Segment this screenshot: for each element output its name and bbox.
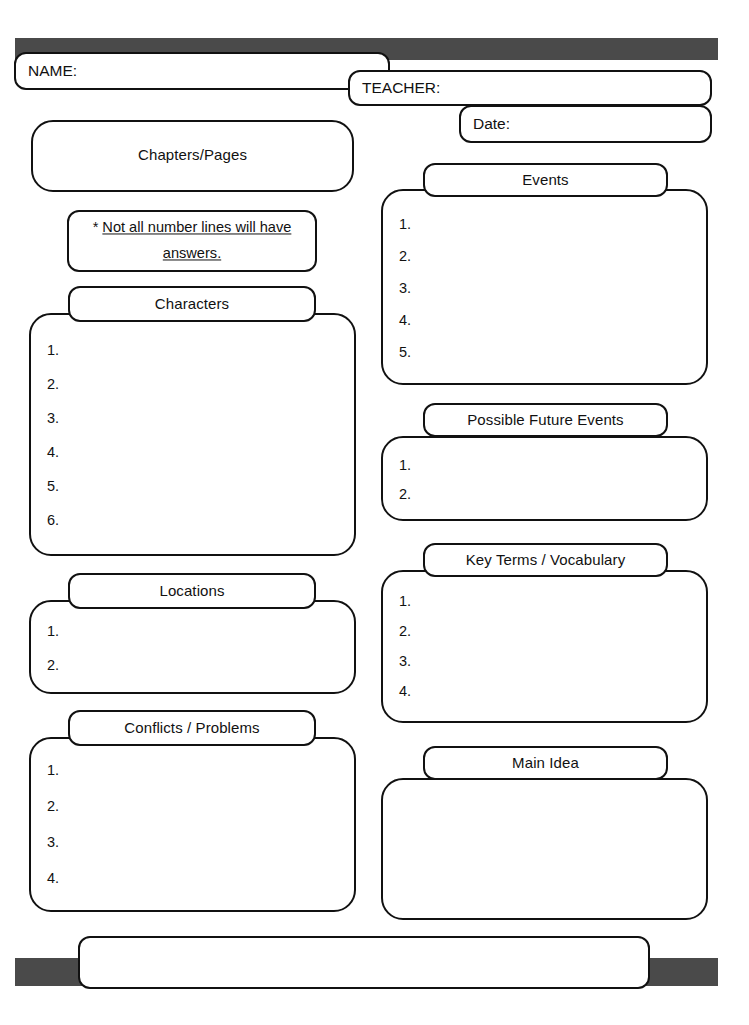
footer-field[interactable] <box>78 936 650 989</box>
list-item: 4. <box>47 871 344 886</box>
list-item: 2. <box>399 624 696 639</box>
locations-lines: 1. 2. <box>47 624 344 672</box>
date-field[interactable]: Date: <box>459 105 712 143</box>
list-item: 1. <box>47 343 344 358</box>
key-terms-header: Key Terms / Vocabulary <box>423 543 668 577</box>
list-item: 2. <box>47 658 344 673</box>
locations-body[interactable]: 1. 2. <box>29 600 356 694</box>
note-asterisk: * <box>93 219 103 235</box>
chapters-pages-box[interactable]: Chapters/Pages <box>31 120 354 192</box>
characters-body[interactable]: 1. 2. 3. 4. 5. 6. <box>29 313 356 556</box>
key-terms-body[interactable]: 1. 2. 3. 4. <box>381 570 708 723</box>
note-text: * Not all number lines will have answers… <box>77 215 307 266</box>
future-events-header: Possible Future Events <box>423 403 668 437</box>
list-item: 2. <box>47 377 344 392</box>
events-header: Events <box>423 163 668 197</box>
list-item: 2. <box>399 249 696 264</box>
future-events-body[interactable]: 1. 2. <box>381 436 708 521</box>
note-box: * Not all number lines will have answers… <box>67 210 317 272</box>
events-title: Events <box>425 171 666 188</box>
key-terms-lines: 1. 2. 3. 4. <box>399 594 696 699</box>
characters-lines: 1. 2. 3. 4. 5. 6. <box>47 343 344 528</box>
events-lines: 1. 2. 3. 4. 5. <box>399 217 696 359</box>
locations-header: Locations <box>68 573 316 609</box>
conflicts-title: Conflicts / Problems <box>70 719 314 736</box>
main-idea-body[interactable] <box>381 778 708 920</box>
conflicts-lines: 1. 2. 3. 4. <box>47 763 344 886</box>
worksheet-page: NAME: TEACHER: Date: Chapters/Pages * No… <box>0 0 749 1025</box>
conflicts-header: Conflicts / Problems <box>68 710 316 746</box>
future-events-lines: 1. 2. <box>399 458 696 501</box>
list-item: 2. <box>399 487 696 502</box>
list-item: 4. <box>47 445 344 460</box>
list-item: 1. <box>399 458 696 473</box>
locations-title: Locations <box>70 582 314 599</box>
key-terms-title: Key Terms / Vocabulary <box>425 551 666 568</box>
name-label: NAME: <box>28 62 77 80</box>
list-item: 3. <box>399 654 696 669</box>
note-underlined-text: Not all number lines will have answers. <box>102 219 291 261</box>
list-item: 3. <box>47 411 344 426</box>
main-idea-title: Main Idea <box>425 754 666 771</box>
list-item: 6. <box>47 513 344 528</box>
events-body[interactable]: 1. 2. 3. 4. 5. <box>381 189 708 385</box>
list-item: 3. <box>399 281 696 296</box>
chapters-pages-title: Chapters/Pages <box>33 146 352 163</box>
list-item: 4. <box>399 684 696 699</box>
list-item: 5. <box>47 479 344 494</box>
future-events-title: Possible Future Events <box>425 411 666 428</box>
list-item: 1. <box>399 594 696 609</box>
list-item: 3. <box>47 835 344 850</box>
list-item: 1. <box>399 217 696 232</box>
list-item: 4. <box>399 313 696 328</box>
list-item: 1. <box>47 763 344 778</box>
date-label: Date: <box>473 115 510 133</box>
list-item: 5. <box>399 345 696 360</box>
list-item: 1. <box>47 624 344 639</box>
list-item: 2. <box>47 799 344 814</box>
teacher-field[interactable]: TEACHER: <box>348 70 712 106</box>
characters-header: Characters <box>68 286 316 322</box>
characters-title: Characters <box>70 295 314 312</box>
main-idea-header: Main Idea <box>423 746 668 780</box>
name-field[interactable]: NAME: <box>14 52 390 90</box>
teacher-label: TEACHER: <box>362 79 440 97</box>
conflicts-body[interactable]: 1. 2. 3. 4. <box>29 737 356 912</box>
